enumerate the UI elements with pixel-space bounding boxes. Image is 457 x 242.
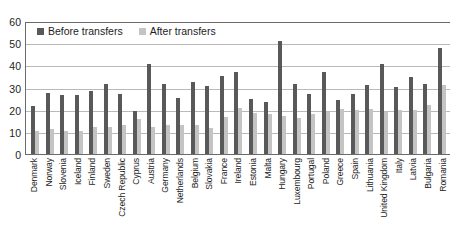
bar-group (130, 22, 145, 154)
bar-group (333, 22, 348, 154)
x-axis-label: Finland (85, 156, 100, 242)
x-axis-label: Italy (392, 156, 407, 242)
x-axis-label: Germany (158, 156, 173, 242)
x-axis-label-text: Austria (147, 158, 156, 184)
x-axis-label-text: Belgium (191, 158, 200, 188)
x-axis-label-text: Ireland (234, 158, 243, 184)
bar-group (173, 22, 188, 154)
y-tick-label-60: 60 (0, 17, 21, 28)
y-tick-label-30: 30 (0, 84, 21, 95)
bar-group (115, 22, 130, 154)
x-axis-label: Sweden (100, 156, 115, 242)
bar-group (376, 22, 391, 154)
bar-after (195, 125, 199, 154)
x-axis-label-text: Portugal (307, 158, 316, 189)
x-axis-label-text: Spain (351, 158, 360, 179)
y-tick-label-50: 50 (0, 39, 21, 50)
x-axis-label-text: Iceland (74, 158, 83, 185)
bar-after (180, 125, 184, 154)
chart-container: 0102030405060 Before transfers After tra… (0, 0, 457, 242)
x-axis-label: France (217, 156, 232, 242)
x-axis-label-text: Malta (264, 158, 273, 179)
y-tick-label-20: 20 (0, 106, 21, 117)
x-axis-label: Cyprus (129, 156, 144, 242)
bar-after (340, 109, 344, 154)
bar-group (405, 22, 420, 154)
y-tick-label-40: 40 (0, 61, 21, 72)
x-axis-label: Lithuania (363, 156, 378, 242)
x-axis-label: Latvia (406, 156, 421, 242)
x-axis-label-text: Luxembourg (293, 158, 302, 205)
x-axis-label: Romania (436, 156, 451, 242)
x-axis-label: Netherlands (173, 156, 188, 242)
bar-after (122, 125, 126, 154)
x-axis-label-text: Greece (336, 158, 345, 186)
legend-label-after: After transfers (150, 25, 216, 37)
x-axis-label-text: Lithuania (366, 158, 375, 192)
bar-after (282, 116, 286, 154)
x-axis-label-text: Norway (45, 158, 54, 187)
x-axis-label: Czech Republic (115, 156, 130, 242)
bar-group (43, 22, 58, 154)
bar-after (50, 129, 54, 154)
x-axis-label-text: Poland (322, 158, 331, 184)
bar-group (362, 22, 377, 154)
bar-group (231, 22, 246, 154)
bar-after (209, 128, 213, 154)
x-axis-label-text: Hungary (278, 158, 287, 190)
bar-after (64, 131, 68, 154)
bar-after (311, 114, 315, 154)
bar-group (289, 22, 304, 154)
x-axis-label: Malta (261, 156, 276, 242)
x-axis-label: Belgium (188, 156, 203, 242)
bar-group (72, 22, 87, 154)
bar-group (347, 22, 362, 154)
x-axis-label: Ireland (231, 156, 246, 242)
legend-swatch-after-icon (139, 28, 146, 35)
x-axis-label-text: Czech Republic (118, 158, 127, 217)
bar-after (427, 105, 431, 154)
bar-after (93, 127, 97, 154)
x-axis-label: Poland (319, 156, 334, 242)
x-axis-label: Luxembourg (290, 156, 305, 242)
y-tick-label-0: 0 (0, 150, 21, 161)
bar-group (86, 22, 101, 154)
x-axis-label-text: United Kingdom (380, 158, 389, 218)
x-axis-label: United Kingdom (377, 156, 392, 242)
bar-group (144, 22, 159, 154)
bar-after (253, 113, 257, 154)
bar-group (275, 22, 290, 154)
bar-after (35, 131, 39, 154)
x-axis-label: Bulgaria (421, 156, 436, 242)
x-axis-label-text: Denmark (30, 158, 39, 192)
x-axis-label: Slovenia (56, 156, 71, 242)
legend-item-before: Before transfers (37, 25, 123, 37)
bar-group (188, 22, 203, 154)
x-axis-label-text: Finland (88, 158, 97, 186)
x-axis-label-text: Slovenia (59, 158, 68, 190)
x-axis-label-text: Germany (161, 158, 170, 193)
bar-after (137, 119, 141, 154)
bar-after (224, 117, 228, 154)
bar-group (420, 22, 435, 154)
x-axis-label: Spain (348, 156, 363, 242)
chart-legend: Before transfers After transfers (37, 25, 216, 37)
bar-after (79, 131, 83, 154)
legend-swatch-before-icon (37, 28, 44, 35)
x-axis-label-text: Cyprus (132, 158, 141, 185)
bar-group (57, 22, 72, 154)
x-axis-label-text: Bulgaria (424, 158, 433, 189)
x-axis-label: Norway (42, 156, 57, 242)
x-axis-label: Slovakia (202, 156, 217, 242)
legend-item-after: After transfers (139, 25, 216, 37)
bar-after (369, 109, 373, 154)
x-axis-label-text: Sweden (103, 158, 112, 188)
x-axis-label-text: Latvia (409, 158, 418, 180)
bar-after (151, 127, 155, 154)
x-axis-label-text: Romania (439, 158, 448, 192)
bar-group (318, 22, 333, 154)
bar-after (268, 114, 272, 154)
x-axis-label-text: France (220, 158, 229, 184)
plot-area (25, 22, 450, 155)
bar-group (391, 22, 406, 154)
